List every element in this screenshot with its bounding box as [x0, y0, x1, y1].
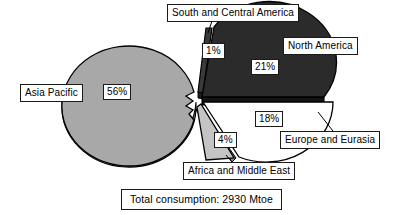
slice-value-north-america: 21%: [251, 59, 279, 75]
slice-label-south-central-america: South and Central America: [167, 4, 299, 22]
slice-value-south-central-america: 1%: [202, 43, 225, 59]
slice-label-africa-middle-east: Africa and Middle East: [183, 162, 295, 180]
total-consumption-caption: Total consumption: 2930 Mtoe: [121, 189, 282, 210]
pie-slice-asia-pacific: [62, 46, 196, 167]
slice-value-asia-pacific: 56%: [103, 84, 131, 100]
pie-chart-graphic: [0, 0, 393, 215]
pie-chart-figure: South and Central America North America …: [0, 0, 393, 215]
slice-label-north-america: North America: [283, 37, 358, 55]
slice-value-africa-middle-east: 4%: [214, 132, 237, 148]
slice-label-asia-pacific: Asia Pacific: [20, 84, 83, 102]
slice-value-europe-eurasia: 18%: [255, 111, 283, 127]
slice-label-europe-eurasia: Europe and Eurasia: [280, 131, 380, 149]
